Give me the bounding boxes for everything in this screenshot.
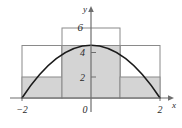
x-tick-label-minus2: −2	[16, 104, 28, 115]
figure-canvas: 6 4 2 −2 2 0 y x	[0, 0, 182, 128]
y-tick-label-4: 4	[80, 47, 85, 58]
y-axis-arrowhead	[88, 6, 94, 12]
x-axis-label: x	[171, 100, 176, 110]
origin-label: 0	[83, 104, 88, 115]
riemann-sum-chart: 6 4 2 −2 2 0 y x	[0, 0, 182, 128]
y-axis-label: y	[82, 4, 87, 14]
inscribed-rect-right	[120, 77, 160, 98]
y-tick-label-2: 2	[80, 72, 85, 83]
x-tick-label-2: 2	[158, 104, 163, 115]
y-tick-label-6: 6	[78, 21, 84, 33]
inscribed-rect-left	[22, 77, 62, 98]
